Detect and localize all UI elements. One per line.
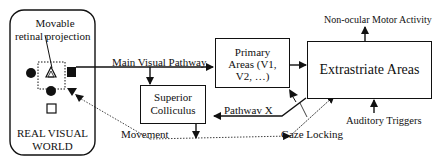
triangle-shape-outline: [46, 67, 56, 77]
square-shape-outline: [47, 104, 56, 113]
gaze-locking-tick: [300, 103, 307, 117]
retinal-label-line1: Movable: [30, 17, 80, 29]
superior-colliculus-node: Superior Colliculus: [140, 85, 206, 124]
primary-areas-node: Primary Areas (V1, V2, …): [215, 38, 290, 88]
real-world-label-line1: REAL VISUAL: [12, 127, 93, 139]
primary-label-line3: V2, …): [216, 70, 289, 82]
primary-input-arrowhead: [289, 89, 298, 98]
sc-label-line1: Superior: [141, 91, 205, 104]
pathway-x-stub: [293, 97, 296, 102]
square-shape-filled: [67, 67, 76, 77]
retinal-label-line2: retinal projection: [15, 30, 90, 42]
main-visual-pathway-label: Main Visual Pathway: [112, 56, 206, 68]
extrastriate-label: Extrastriate Areas: [320, 62, 420, 77]
circle-shape-bottom: [46, 86, 56, 96]
primary-label-line1: Primary: [216, 46, 289, 58]
movement-dotted-horizontal: [150, 136, 290, 139]
auditory-label: Auditory Triggers: [346, 115, 422, 127]
sc-label-line2: Colliculus: [141, 104, 205, 117]
real-world-label-line2: WORLD: [12, 140, 93, 152]
movement-label: Movement: [121, 128, 169, 140]
pathway-x-label: Pathwav X: [224, 104, 273, 116]
circle-shape-left: [26, 68, 36, 78]
primary-label-line2: Areas (V1,: [216, 58, 289, 70]
movement-arrowhead: [75, 94, 84, 102]
non-ocular-label: Non-ocular Motor Activity: [324, 14, 432, 26]
extrastriate-areas-node: Extrastriate Areas: [307, 41, 432, 99]
gaze-locking-label: Gaze Locking: [281, 128, 343, 140]
